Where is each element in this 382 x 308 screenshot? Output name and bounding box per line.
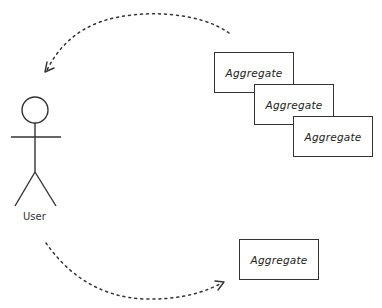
arrow-aggregates-to-user: [45, 14, 229, 72]
actor-stick-figure-icon: [11, 97, 61, 206]
actor-label: User: [23, 211, 46, 222]
single-aggregate-box: Aggregate: [239, 239, 319, 280]
arrow-user-to-aggregate: [46, 243, 224, 299]
arrowhead-icon: [45, 62, 54, 72]
aggregate-box-3: Aggregate: [293, 116, 373, 157]
diagram-canvas: User Aggregate Aggregate Aggregate Aggre…: [0, 0, 382, 308]
